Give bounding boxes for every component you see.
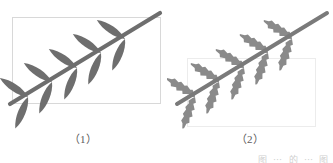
figure-1-stem — [10, 13, 160, 104]
figure-1-caption: （1） — [0, 130, 166, 146]
figure-2: （2） — [167, 0, 333, 163]
figure-2-artwork — [167, 0, 333, 140]
figure-2-caption: （2） — [167, 130, 333, 146]
bottom-edge-text: 图 ⋯ 的 ⋯ 图 — [258, 153, 333, 163]
figure-1-branch — [0, 13, 160, 130]
figure-2-branch — [167, 13, 327, 130]
figure-1-artwork — [0, 0, 166, 140]
figure-comparison-canvas: （1） — [0, 0, 333, 163]
figure-1: （1） — [0, 0, 166, 163]
